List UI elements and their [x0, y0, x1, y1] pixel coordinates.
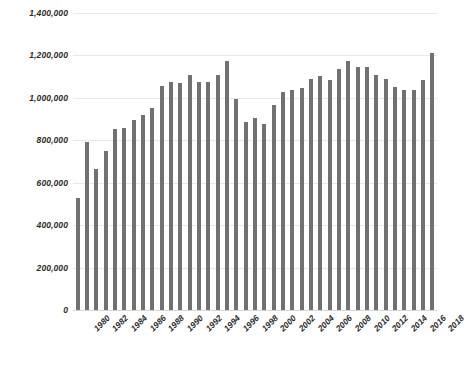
bar [216, 75, 220, 310]
bar [104, 151, 108, 310]
bar [244, 122, 248, 310]
x-tick-label: 2006 [334, 313, 354, 333]
x-tick-label: 1994 [222, 313, 242, 333]
bar [85, 142, 89, 310]
y-tick-label: 1,200,000 [0, 50, 68, 60]
y-axis: 1,400,0001,200,0001,000,000800,000600,00… [0, 0, 68, 368]
x-tick-label: 1986 [147, 313, 167, 333]
x-tick-label: 1982 [110, 313, 130, 333]
bar [421, 80, 425, 310]
bar [374, 75, 378, 310]
bar [197, 82, 201, 310]
x-tick-label: 2012 [390, 313, 410, 333]
x-tick-label: 2002 [297, 313, 317, 333]
bar [402, 90, 406, 310]
bar [206, 82, 210, 310]
x-tick-label: 1980 [91, 313, 111, 333]
bar [272, 105, 276, 310]
x-tick-label: 2016 [427, 313, 447, 333]
bar [76, 198, 80, 310]
x-axis: 1980198219841986198819901992199419961998… [73, 313, 437, 368]
x-tick-label: 1988 [166, 313, 186, 333]
y-tick-label: 200,000 [0, 263, 68, 273]
bar [141, 115, 145, 310]
bar [430, 53, 434, 310]
bar [160, 86, 164, 310]
bar [94, 169, 98, 310]
bar [150, 108, 154, 310]
bar [356, 67, 360, 310]
bar [384, 79, 388, 310]
x-tick-label: 1996 [241, 313, 261, 333]
bar [262, 124, 266, 310]
bar [290, 90, 294, 310]
x-tick-label: 2000 [278, 313, 298, 333]
y-tick-label: 0 [0, 305, 68, 315]
bar [169, 82, 173, 310]
x-tick-label: 2004 [315, 313, 335, 333]
bar [346, 61, 350, 310]
bar [178, 83, 182, 310]
bar [365, 67, 369, 310]
bar [337, 69, 341, 310]
y-tick-label: 1,400,000 [0, 8, 68, 18]
x-tick-label: 2008 [353, 313, 373, 333]
x-tick-label: 1992 [203, 313, 223, 333]
bar [113, 129, 117, 310]
x-tick-label: 2010 [371, 313, 391, 333]
x-tick-label: 2014 [409, 313, 429, 333]
y-tick-label: 600,000 [0, 178, 68, 188]
bar [122, 128, 126, 310]
gridline [73, 310, 437, 311]
bar [253, 118, 257, 310]
bar [393, 87, 397, 310]
x-tick-label: 1998 [259, 313, 279, 333]
bar [328, 80, 332, 310]
bar [234, 99, 238, 310]
bar [300, 88, 304, 310]
x-tick-label: 1984 [129, 313, 149, 333]
bars-layer [73, 13, 437, 310]
bar [132, 120, 136, 310]
x-tick-label: 1990 [185, 313, 205, 333]
plot-area [73, 13, 437, 310]
bar [318, 76, 322, 310]
bar [225, 61, 229, 310]
x-tick-label: 2018 [446, 313, 466, 333]
y-tick-label: 400,000 [0, 220, 68, 230]
bar [188, 75, 192, 310]
bar [281, 92, 285, 311]
bar [309, 79, 313, 310]
y-tick-label: 800,000 [0, 135, 68, 145]
y-tick-label: 1,000,000 [0, 93, 68, 103]
bar [412, 90, 416, 310]
